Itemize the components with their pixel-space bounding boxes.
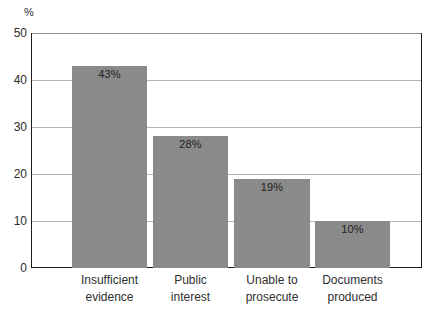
bar-insufficient-evidence[interactable]: 43% (72, 66, 147, 268)
bar-series: 43% 28% 19% 10% (31, 33, 422, 268)
x-axis-category-labels: Insufficient evidence Public interest Un… (31, 272, 422, 315)
bar-unable-to-prosecute[interactable]: 19% (234, 179, 310, 268)
y-tick-label-30: 30 (1, 121, 27, 133)
y-tick-label-50: 50 (1, 27, 27, 39)
y-tick-label-20: 20 (1, 168, 27, 180)
bar-value-label: 43% (72, 68, 147, 81)
bar-value-label: 28% (153, 138, 228, 151)
y-axis-tick-labels: 50 40 30 20 10 0 (0, 33, 27, 268)
x-label-line-1: Documents (300, 272, 405, 289)
x-label-documents-produced: Documents produced (300, 272, 405, 306)
bar-documents-produced[interactable]: 10% (315, 221, 390, 268)
x-label-line-2: produced (300, 289, 405, 306)
bar-value-label: 10% (315, 223, 390, 236)
y-tick-label-10: 10 (1, 215, 27, 227)
y-tick-label-40: 40 (1, 74, 27, 86)
bar-chart: % 50 40 30 20 10 0 43% 28% 19% 10% (0, 0, 439, 315)
bar-value-label: 19% (234, 181, 310, 194)
bar-public-interest[interactable]: 28% (153, 136, 228, 268)
y-axis-unit-label: % (24, 6, 34, 18)
y-tick-label-0: 0 (1, 262, 27, 274)
